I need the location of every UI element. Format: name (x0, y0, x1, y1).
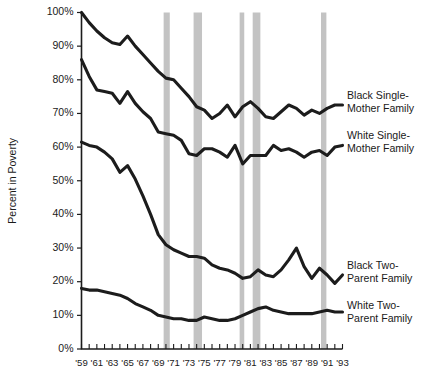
x-axis-tick-label: '93 (336, 357, 349, 368)
x-axis-tick-label: '91 (321, 357, 334, 368)
x-axis-tick-label: '59 (75, 357, 88, 368)
legend-label-line1: White Two- (347, 299, 400, 311)
legend-label-line1: Black Two- (347, 259, 399, 271)
data-series (82, 13, 343, 321)
x-axis-tick-label: '83 (259, 357, 272, 368)
legend-item: White Single-Mother Family (347, 129, 415, 154)
recession-bands (164, 13, 327, 350)
x-axis-tick-label: '69 (152, 357, 165, 368)
legend-label-line1: Black Single- (347, 89, 409, 101)
legend-label-line2: Parent Family (347, 272, 413, 284)
y-axis-tick-label: 30% (52, 241, 73, 253)
chart-axes (82, 13, 343, 350)
y-axis-title-text: Percent in Poverty (6, 137, 18, 224)
y-axis-tick-label: 40% (52, 207, 73, 219)
series-line-3 (82, 288, 343, 320)
recession-band (240, 13, 245, 350)
y-axis-tick-label: 60% (52, 140, 73, 152)
recession-band (253, 13, 261, 350)
y-axis-tick-label: 80% (52, 73, 73, 85)
axis-ticks (77, 13, 343, 350)
y-axis-tick-label: 0% (58, 342, 73, 354)
x-axis-tick-label: '65 (121, 357, 134, 368)
x-axis-tick-label: '79 (229, 357, 242, 368)
axis-lines (82, 13, 343, 350)
legend-label-line2: Mother Family (347, 102, 415, 114)
chart-svg: 0%10%20%30%40%50%60%70%80%90%100% '59'61… (0, 0, 425, 390)
x-axis-tick-label: '75 (198, 357, 211, 368)
poverty-line-chart: 0%10%20%30%40%50%60%70%80%90%100% '59'61… (0, 0, 425, 390)
y-axis-tick-label: 70% (52, 106, 73, 118)
y-axis-tick-label: 50% (52, 174, 73, 186)
x-axis-tick-label: '77 (213, 357, 226, 368)
recession-band (194, 13, 202, 350)
y-axis-tick-label: 20% (52, 274, 73, 286)
x-axis-tick-labels: '59'61'63'65'67'69'71'73'75'77'79'81'83'… (75, 357, 349, 368)
recession-band (321, 13, 326, 350)
recession-band (164, 13, 170, 350)
legend-item: Black Two-Parent Family (347, 259, 413, 284)
series-line-1 (82, 60, 343, 164)
legend-item: White Two-Parent Family (347, 299, 413, 324)
x-axis-tick-label: '87 (290, 357, 303, 368)
y-axis-title: Percent in Poverty (6, 137, 18, 224)
x-axis-tick-label: '67 (137, 357, 150, 368)
x-axis-tick-label: '89 (306, 357, 319, 368)
x-axis-tick-label: '81 (244, 357, 257, 368)
x-axis-tick-label: '61 (91, 357, 104, 368)
legend-label-line1: White Single- (347, 129, 410, 141)
legend-label-line2: Parent Family (347, 312, 413, 324)
legend-label-line2: Mother Family (347, 142, 415, 154)
x-axis-tick-label: '71 (167, 357, 180, 368)
legend-item: Black Single-Mother Family (347, 89, 415, 114)
x-axis-tick-label: '85 (275, 357, 288, 368)
series-legend: Black Single-Mother FamilyWhite Single-M… (347, 89, 415, 324)
x-axis-tick-label: '73 (183, 357, 196, 368)
y-axis-tick-label: 10% (52, 308, 73, 320)
y-axis-tick-label: 90% (52, 39, 73, 51)
series-line-2 (82, 142, 343, 283)
y-axis-tick-labels: 0%10%20%30%40%50%60%70%80%90%100% (47, 5, 74, 354)
x-axis-tick-label: '63 (106, 357, 119, 368)
y-axis-tick-label: 100% (47, 5, 74, 17)
